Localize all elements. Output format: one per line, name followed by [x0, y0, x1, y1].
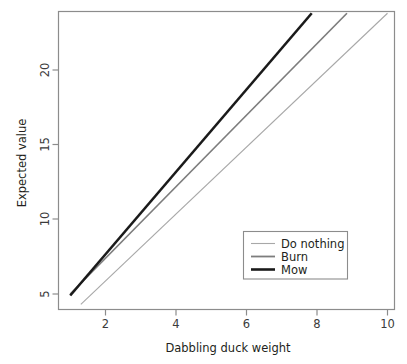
legend-label-mow: Mow	[281, 263, 307, 277]
legend-label-burn: Burn	[281, 250, 308, 264]
chart-figure: 5 10 15 20 Expected value 2 4 6 8 10 Dab…	[0, 0, 407, 364]
y-tick-label-10: 10	[38, 212, 52, 227]
y-tick-label-15: 15	[38, 137, 52, 152]
x-tick-label-10: 10	[380, 317, 395, 331]
line-chart-svg: 5 10 15 20 Expected value 2 4 6 8 10 Dab…	[0, 0, 407, 364]
x-tick-label-4: 4	[172, 317, 179, 331]
x-axis-title: Dabbling duck weight	[165, 341, 291, 355]
x-tick-label-6: 6	[243, 317, 250, 331]
y-tick-label-20: 20	[38, 63, 52, 78]
y-tick-label-5: 5	[38, 290, 52, 297]
y-axis-title: Expected value	[15, 119, 29, 208]
chart-legend: Do nothing Burn Mow	[244, 232, 348, 280]
legend-label-do-nothing: Do nothing	[281, 237, 344, 251]
x-tick-label-2: 2	[102, 317, 109, 331]
x-tick-label-8: 8	[313, 317, 320, 331]
